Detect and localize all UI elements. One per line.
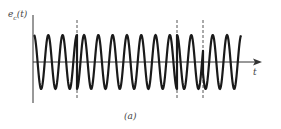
waveform-plot xyxy=(0,0,281,129)
y-axis-label: ec(t) xyxy=(8,9,27,21)
figure-caption: (a) xyxy=(124,111,136,121)
time-axis-label: t xyxy=(253,67,257,77)
carrier-waveform-figure: ec(t) t (a) xyxy=(0,0,281,129)
